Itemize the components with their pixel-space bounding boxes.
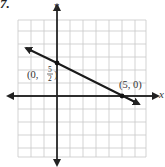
svg-text:5: 5 bbox=[48, 65, 52, 74]
coordinate-graph: y x (0, 5 2 ) (5, 0) bbox=[0, 0, 165, 167]
point-x-intercept bbox=[120, 94, 125, 99]
svg-text:): ) bbox=[54, 69, 58, 81]
point-a-label: (0, 5 2 ) bbox=[27, 65, 58, 83]
svg-text:2: 2 bbox=[48, 74, 52, 83]
x-axis-label: x bbox=[158, 88, 164, 100]
point-y-intercept bbox=[55, 61, 60, 66]
y-axis-label: y bbox=[53, 0, 59, 11]
point-b-label: (5, 0) bbox=[119, 79, 142, 91]
svg-text:(0,: (0, bbox=[27, 69, 38, 81]
